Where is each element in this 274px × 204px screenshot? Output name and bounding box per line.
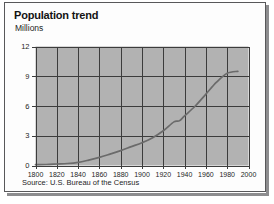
x-axis-label: 1980	[219, 171, 235, 178]
line-chart-svg: 036912 180018201840186018801900192019401…	[0, 0, 274, 204]
x-axis-label: 2000	[241, 171, 257, 178]
x-axis-label: 1820	[49, 171, 65, 178]
y-axis-label: 0	[25, 161, 29, 170]
x-axis-label: 1900	[134, 171, 150, 178]
x-axis-label: 1840	[70, 171, 86, 178]
y-axis-tick-labels: 036912	[21, 42, 29, 170]
source-note: Source: U.S. Bureau of the Census	[22, 178, 139, 187]
plot-area: 036912 180018201840186018801900192019401…	[0, 0, 274, 204]
y-axis-ticks	[32, 48, 36, 167]
y-axis-label: 6	[25, 102, 29, 111]
x-axis-label: 1860	[92, 171, 108, 178]
population-trend-figure: Population trend Millions 036912 1800182…	[0, 0, 274, 204]
y-axis-label: 12	[21, 42, 29, 51]
x-axis-label: 1800	[28, 171, 44, 178]
x-axis-tick-labels: 1800182018401860188019001920194019601980…	[28, 171, 257, 178]
x-axis-label: 1940	[177, 171, 193, 178]
x-axis-label: 1920	[156, 171, 172, 178]
y-axis-label: 3	[25, 131, 29, 140]
x-axis-label: 1960	[198, 171, 214, 178]
y-axis-label: 9	[25, 72, 29, 81]
x-axis-label: 1880	[113, 171, 129, 178]
